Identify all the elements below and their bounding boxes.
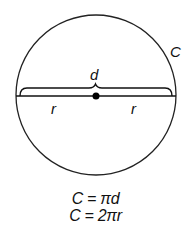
radius-label-right: r (131, 100, 137, 117)
formula-diameter: C = πd (0, 190, 191, 208)
diameter-label: d (90, 66, 99, 83)
formula-radius: C = 2πr (0, 207, 191, 225)
radius-label-left: r (51, 100, 57, 117)
circumference-label: C (170, 43, 181, 60)
center-point (93, 93, 100, 100)
